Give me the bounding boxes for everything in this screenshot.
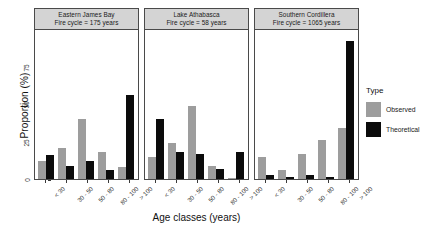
facetted-bar-chart: Proportion (%) 0255075 Eastern James Bay… (0, 0, 427, 240)
bar-theoretical[interactable] (176, 152, 184, 179)
facet-strip: Southern CordilleraFire cycle = 1065 yea… (254, 8, 359, 30)
bar-group (318, 30, 335, 179)
bar-theoretical[interactable] (196, 154, 204, 180)
bar-observed[interactable] (278, 170, 286, 179)
x-axis-title: Age classes (years) (34, 212, 359, 223)
bar-theoretical[interactable] (306, 175, 314, 180)
bar-group-container (255, 30, 358, 179)
bar-group-container (35, 30, 138, 179)
bar-group (278, 30, 295, 179)
bar-theoretical[interactable] (86, 161, 94, 179)
x-tick-label: 50 - 80 (96, 185, 115, 204)
x-tick-label: 50 - 80 (316, 185, 335, 204)
legend-title: Type (366, 86, 420, 95)
x-tick-label: 30 - 50 (185, 185, 204, 204)
facet-subtitle: Fire cycle = 58 years (166, 19, 226, 27)
bar-group (298, 30, 315, 179)
legend-item-observed[interactable]: Observed (366, 102, 420, 117)
y-tick-label: 25 (23, 139, 30, 146)
x-tick-label: 80 - 100 (228, 185, 249, 206)
x-tick-label: < 30 (52, 185, 66, 199)
x-tick-label: 50 - 80 (206, 185, 225, 204)
x-tick-label: 30 - 50 (295, 185, 314, 204)
facet-strip: Eastern James BayFire cycle = 175 years (34, 8, 139, 30)
bar-theoretical[interactable] (156, 119, 164, 179)
facet-title: Lake Athabasca (173, 11, 219, 19)
legend-item-theoretical[interactable]: Theoretical (366, 122, 420, 137)
bar-theoretical[interactable] (236, 152, 244, 179)
legend-swatch-observed (366, 102, 381, 117)
plot-area (144, 30, 249, 180)
bar-group (148, 30, 165, 179)
bar-observed[interactable] (188, 106, 196, 180)
facet-panel: Southern CordilleraFire cycle = 1065 yea… (254, 8, 359, 214)
facet-subtitle: Fire cycle = 175 years (55, 19, 119, 27)
legend-swatch-theoretical (366, 122, 381, 137)
legend: Type Observed Theoretical (366, 86, 420, 142)
bar-theoretical[interactable] (126, 95, 134, 179)
y-tick-label: 75 (23, 64, 30, 71)
bar-observed[interactable] (208, 166, 216, 180)
x-tick-label: < 30 (272, 185, 286, 199)
facet-panel: Lake AthabascaFire cycle = 58 years< 303… (144, 8, 249, 214)
bar-observed[interactable] (338, 128, 346, 179)
bar-theoretical[interactable] (106, 170, 114, 179)
bar-observed[interactable] (58, 148, 66, 180)
legend-label-observed: Observed (386, 106, 415, 113)
bar-observed[interactable] (228, 178, 236, 180)
x-tick-label: 80 - 100 (338, 185, 359, 206)
bar-group (58, 30, 75, 179)
bar-theoretical[interactable] (286, 177, 294, 179)
x-tick-label: 30 - 50 (75, 185, 94, 204)
bar-group (188, 30, 205, 179)
bar-theoretical[interactable] (346, 41, 354, 179)
x-tick-label: < 30 (162, 185, 176, 199)
facet-strip: Lake AthabascaFire cycle = 58 years (144, 8, 249, 30)
bar-group-container (145, 30, 248, 179)
bar-theoretical[interactable] (266, 175, 274, 180)
x-axis-labels: < 3030 - 5050 - 8080 - 100> 100 (34, 180, 139, 214)
bar-observed[interactable] (98, 152, 106, 179)
y-tick-label: 0 (25, 178, 32, 182)
bar-group (98, 30, 115, 179)
x-tick-label: > 100 (357, 185, 373, 201)
plot-area (254, 30, 359, 180)
plot-area (34, 30, 139, 180)
bar-group (338, 30, 355, 179)
bar-group (258, 30, 275, 179)
bar-observed[interactable] (118, 167, 126, 179)
bar-observed[interactable] (258, 157, 266, 180)
bar-theoretical[interactable] (326, 177, 334, 179)
bar-observed[interactable] (318, 140, 326, 179)
panel-row: Eastern James BayFire cycle = 175 years<… (34, 8, 359, 214)
bar-group (118, 30, 135, 179)
bar-group (78, 30, 95, 179)
y-axis-ticks: 0255075 (18, 0, 30, 240)
bar-observed[interactable] (168, 143, 176, 179)
x-tick-label: 80 - 100 (118, 185, 139, 206)
bar-theoretical[interactable] (66, 166, 74, 180)
bar-group (38, 30, 55, 179)
bar-group (228, 30, 245, 179)
bar-group (168, 30, 185, 179)
y-tick-label: 50 (23, 101, 30, 108)
facet-panel: Eastern James BayFire cycle = 175 years<… (34, 8, 139, 214)
legend-label-theoretical: Theoretical (386, 126, 420, 133)
facet-title: Southern Cordillera (278, 11, 334, 19)
x-axis-labels: < 3030 - 5050 - 8080 - 100> 100 (254, 180, 359, 214)
facet-subtitle: Fire cycle = 1065 years (273, 19, 340, 27)
bar-group (208, 30, 225, 179)
bar-observed[interactable] (38, 161, 46, 179)
bar-observed[interactable] (148, 157, 156, 180)
x-axis-labels: < 3030 - 5050 - 8080 - 100> 100 (144, 180, 249, 214)
facet-title: Eastern James Bay (58, 11, 114, 19)
bar-observed[interactable] (298, 154, 306, 180)
bar-theoretical[interactable] (46, 155, 54, 179)
bar-observed[interactable] (78, 119, 86, 179)
bar-theoretical[interactable] (216, 169, 224, 180)
